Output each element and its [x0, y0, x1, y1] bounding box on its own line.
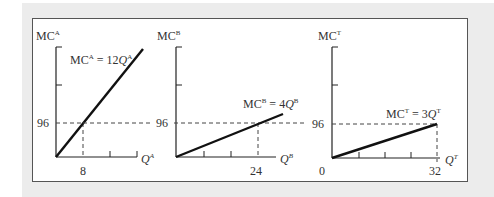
x-tick-label-origin-t: 0 — [319, 164, 325, 178]
panel-total: MCT MCT = 3QT 96 0 32 QT — [308, 29, 459, 178]
x-axis-label-t: QT — [445, 153, 459, 167]
x-axis-label-b: QB — [280, 152, 294, 166]
y-tick-label-t: 96 — [312, 117, 324, 131]
equation-label-a: MCA = 12QA — [70, 53, 132, 67]
y-axis-label-a: MCA — [36, 29, 60, 43]
x-tick-label-a: 8 — [80, 164, 86, 178]
equation-label-b: MCB = 4QB — [243, 97, 299, 111]
y-axis-label-t: MCT — [318, 29, 342, 43]
x-tick-label-t: 32 — [429, 164, 441, 178]
x-tick-label-b: 24 — [250, 164, 262, 178]
mc-line-b — [176, 114, 283, 157]
marginal-cost-charts: MCA MCA = 12QA 96 8 QA MCB MCB = 4QB 96 … — [0, 0, 494, 197]
y-tick-label-b: 96 — [156, 116, 168, 130]
panel-b: MCB MCB = 4QB 96 24 QB — [83, 29, 306, 178]
equation-label-t: MCT = 3QT — [386, 107, 441, 121]
panel-a: MCA MCA = 12QA 96 8 QA — [36, 29, 155, 178]
y-tick-label-a: 96 — [37, 116, 49, 130]
y-axis-label-b: MCB — [157, 29, 181, 43]
x-axis-label-a: QA — [141, 152, 155, 166]
